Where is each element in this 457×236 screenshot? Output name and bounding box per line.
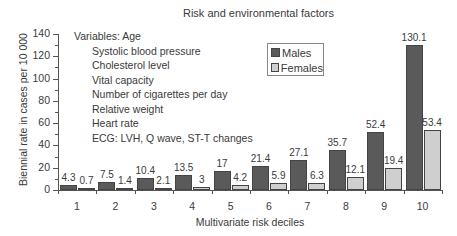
x-tick — [58, 190, 59, 194]
males-swatch-icon — [271, 48, 280, 57]
bar-females — [347, 177, 364, 190]
value-label: 52.4 — [361, 119, 391, 130]
y-tick — [53, 145, 58, 146]
x-tick-label: 8 — [327, 200, 365, 212]
x-tick-label: 1 — [58, 200, 96, 212]
value-label: 0.7 — [72, 175, 102, 186]
x-tick — [173, 190, 174, 194]
value-label: 4.2 — [225, 172, 255, 183]
x-tick-label: 4 — [173, 200, 211, 212]
y-tick-label: 20 — [24, 161, 50, 173]
y-tick — [55, 90, 58, 91]
x-axis-label: Multivariate risk deciles — [58, 216, 442, 228]
variables-annotation: Variables: Age Systolic blood pressure C… — [74, 29, 253, 145]
bar-females — [424, 130, 441, 190]
y-tick — [53, 168, 58, 169]
y-tick — [53, 101, 58, 102]
value-label: 27.1 — [284, 147, 314, 158]
bar-females — [193, 187, 210, 190]
y-tick — [53, 123, 58, 124]
value-label: 21.4 — [246, 153, 276, 164]
x-tick — [288, 190, 289, 194]
y-tick — [55, 134, 58, 135]
y-tick-label: 80 — [24, 94, 50, 106]
x-tick-label: 9 — [365, 200, 403, 212]
value-label: 35.7 — [322, 137, 352, 148]
x-tick — [442, 190, 443, 194]
variable-item: Relative weight — [74, 102, 253, 117]
y-tick — [55, 67, 58, 68]
y-tick — [55, 157, 58, 158]
x-tick-label: 5 — [212, 200, 250, 212]
y-tick — [53, 79, 58, 80]
x-tick — [135, 190, 136, 194]
value-label: 19.4 — [379, 155, 409, 166]
value-label: 12.1 — [340, 164, 370, 175]
y-tick — [55, 112, 58, 113]
y-tick — [55, 45, 58, 46]
bar-females — [270, 183, 287, 190]
bar-females — [308, 183, 325, 190]
value-label: 130.1 — [399, 32, 429, 43]
value-label: 2.1 — [148, 175, 178, 186]
y-tick-label: 0 — [24, 183, 50, 195]
y-tick-label: 60 — [24, 116, 50, 128]
bar-females — [78, 188, 95, 190]
legend-label: Females — [281, 62, 323, 74]
value-label: 5.9 — [264, 170, 294, 181]
x-tick — [250, 190, 251, 194]
bar-females — [116, 188, 133, 190]
x-tick — [365, 190, 366, 194]
y-tick-label: 140 — [24, 27, 50, 39]
value-label: 3 — [187, 174, 217, 185]
y-tick — [53, 56, 58, 57]
legend-item-females: Females — [268, 61, 323, 74]
x-tick-label: 2 — [96, 200, 134, 212]
value-label: 6.3 — [302, 170, 332, 181]
x-tick — [327, 190, 328, 194]
y-tick-label: 120 — [24, 49, 50, 61]
x-tick-label: 6 — [250, 200, 288, 212]
x-tick-label: 3 — [135, 200, 173, 212]
females-swatch-icon — [271, 63, 279, 72]
variable-item: Vital capacity — [74, 73, 253, 88]
x-tick-label: 7 — [288, 200, 326, 212]
y-tick-label: 40 — [24, 138, 50, 150]
variable-item: Cholesterol level — [74, 58, 253, 73]
value-label: 17 — [207, 158, 237, 169]
legend-label: Males — [282, 47, 311, 59]
y-tick-label: 100 — [24, 72, 50, 84]
x-tick — [212, 190, 213, 194]
x-tick — [96, 190, 97, 194]
variable-item: ECG: LVH, Q wave, ST-T changes — [74, 131, 253, 146]
y-tick — [53, 34, 58, 35]
value-label: 53.4 — [417, 117, 447, 128]
legend-item-males: Males — [268, 46, 323, 59]
bar-females — [385, 168, 402, 190]
x-tick — [404, 190, 405, 194]
legend: Males Females — [267, 43, 324, 76]
value-label: 13.5 — [169, 162, 199, 173]
x-tick-label: 10 — [404, 200, 442, 212]
variable-item: Heart rate — [74, 116, 253, 131]
variables-heading: Variables: Age — [74, 29, 253, 44]
y-axis — [58, 34, 59, 191]
variable-item: Number of cigarettes per day — [74, 87, 253, 102]
bar-females — [232, 185, 249, 190]
value-label: 1.4 — [110, 175, 140, 186]
bar-females — [155, 188, 172, 190]
chart-title: Risk and environmental factors — [60, 7, 457, 19]
variable-item: Systolic blood pressure — [74, 44, 253, 59]
